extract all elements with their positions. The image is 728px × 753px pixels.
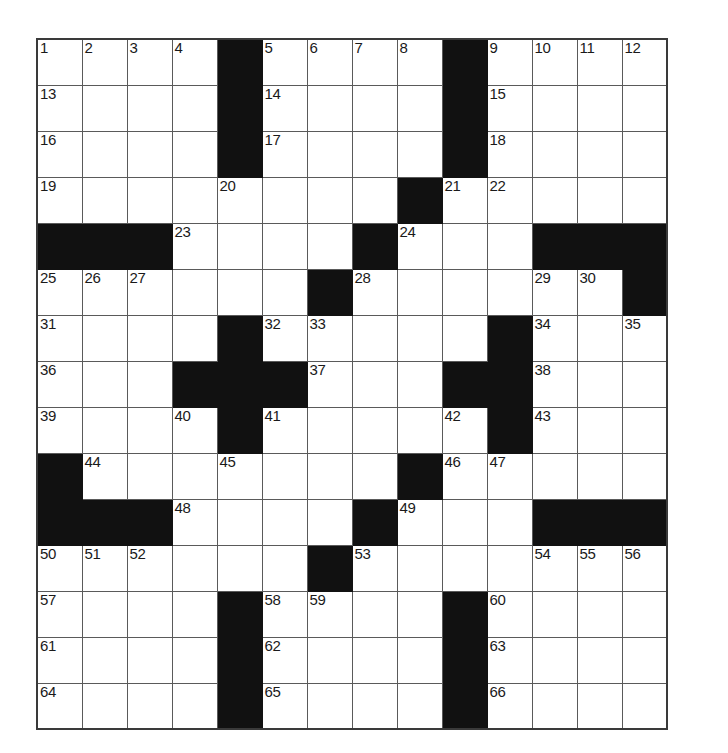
crossword-cell[interactable]: 33 xyxy=(307,315,352,361)
crossword-cell[interactable] xyxy=(532,453,577,499)
crossword-cell[interactable] xyxy=(172,177,217,223)
crossword-cell[interactable] xyxy=(307,407,352,453)
crossword-cell[interactable]: 46 xyxy=(442,453,487,499)
crossword-cell[interactable] xyxy=(352,315,397,361)
crossword-cell[interactable]: 14 xyxy=(262,85,307,131)
crossword-cell[interactable] xyxy=(397,269,442,315)
crossword-cell[interactable] xyxy=(397,545,442,591)
crossword-cell[interactable]: 26 xyxy=(82,269,127,315)
crossword-cell[interactable]: 40 xyxy=(172,407,217,453)
crossword-cell[interactable]: 31 xyxy=(37,315,82,361)
crossword-cell[interactable] xyxy=(82,131,127,177)
crossword-cell[interactable]: 43 xyxy=(532,407,577,453)
crossword-cell[interactable] xyxy=(532,591,577,637)
crossword-cell[interactable]: 28 xyxy=(352,269,397,315)
crossword-cell[interactable]: 37 xyxy=(307,361,352,407)
crossword-cell[interactable] xyxy=(577,315,622,361)
crossword-cell[interactable] xyxy=(127,637,172,683)
crossword-cell[interactable]: 23 xyxy=(172,223,217,269)
crossword-cell[interactable] xyxy=(172,637,217,683)
crossword-cell[interactable]: 22 xyxy=(487,177,532,223)
crossword-cell[interactable]: 39 xyxy=(37,407,82,453)
crossword-cell[interactable]: 66 xyxy=(487,683,532,729)
crossword-cell[interactable] xyxy=(82,591,127,637)
crossword-cell[interactable] xyxy=(307,85,352,131)
crossword-cell[interactable] xyxy=(532,131,577,177)
crossword-cell[interactable] xyxy=(397,637,442,683)
crossword-cell[interactable] xyxy=(217,499,262,545)
crossword-cell[interactable] xyxy=(262,499,307,545)
crossword-cell[interactable]: 30 xyxy=(577,269,622,315)
crossword-cell[interactable] xyxy=(397,315,442,361)
crossword-cell[interactable] xyxy=(442,545,487,591)
crossword-cell[interactable] xyxy=(172,591,217,637)
crossword-cell[interactable]: 44 xyxy=(82,453,127,499)
crossword-cell[interactable] xyxy=(397,85,442,131)
crossword-cell[interactable] xyxy=(352,131,397,177)
crossword-cell[interactable] xyxy=(622,131,667,177)
crossword-cell[interactable]: 45 xyxy=(217,453,262,499)
crossword-cell[interactable]: 56 xyxy=(622,545,667,591)
crossword-cell[interactable] xyxy=(127,177,172,223)
crossword-cell[interactable]: 16 xyxy=(37,131,82,177)
crossword-cell[interactable]: 50 xyxy=(37,545,82,591)
crossword-grid[interactable]: 1234567891011121314151617181920212223242… xyxy=(36,38,668,730)
crossword-cell[interactable] xyxy=(262,177,307,223)
crossword-cell[interactable] xyxy=(127,315,172,361)
crossword-cell[interactable] xyxy=(397,407,442,453)
crossword-cell[interactable]: 57 xyxy=(37,591,82,637)
crossword-cell[interactable] xyxy=(622,85,667,131)
crossword-cell[interactable]: 27 xyxy=(127,269,172,315)
crossword-cell[interactable]: 12 xyxy=(622,39,667,85)
crossword-cell[interactable]: 6 xyxy=(307,39,352,85)
crossword-cell[interactable] xyxy=(127,407,172,453)
crossword-cell[interactable] xyxy=(352,361,397,407)
crossword-cell[interactable] xyxy=(442,269,487,315)
crossword-cell[interactable]: 63 xyxy=(487,637,532,683)
crossword-cell[interactable] xyxy=(82,361,127,407)
crossword-cell[interactable]: 48 xyxy=(172,499,217,545)
crossword-cell[interactable] xyxy=(172,315,217,361)
crossword-cell[interactable]: 53 xyxy=(352,545,397,591)
crossword-cell[interactable] xyxy=(82,177,127,223)
crossword-cell[interactable] xyxy=(622,361,667,407)
crossword-cell[interactable] xyxy=(217,223,262,269)
crossword-cell[interactable]: 35 xyxy=(622,315,667,361)
crossword-cell[interactable] xyxy=(172,683,217,729)
crossword-cell[interactable]: 47 xyxy=(487,453,532,499)
crossword-cell[interactable]: 3 xyxy=(127,39,172,85)
crossword-cell[interactable] xyxy=(172,269,217,315)
crossword-cell[interactable] xyxy=(577,85,622,131)
crossword-cell[interactable] xyxy=(262,223,307,269)
crossword-cell[interactable] xyxy=(82,637,127,683)
crossword-cell[interactable] xyxy=(262,269,307,315)
crossword-cell[interactable] xyxy=(352,85,397,131)
crossword-cell[interactable] xyxy=(532,637,577,683)
crossword-cell[interactable] xyxy=(82,85,127,131)
crossword-cell[interactable]: 25 xyxy=(37,269,82,315)
crossword-cell[interactable]: 21 xyxy=(442,177,487,223)
crossword-cell[interactable] xyxy=(127,453,172,499)
crossword-cell[interactable]: 9 xyxy=(487,39,532,85)
crossword-cell[interactable]: 51 xyxy=(82,545,127,591)
crossword-cell[interactable] xyxy=(172,131,217,177)
crossword-cell[interactable]: 52 xyxy=(127,545,172,591)
crossword-cell[interactable] xyxy=(352,591,397,637)
crossword-cell[interactable]: 7 xyxy=(352,39,397,85)
crossword-cell[interactable]: 42 xyxy=(442,407,487,453)
crossword-cell[interactable]: 38 xyxy=(532,361,577,407)
crossword-cell[interactable]: 5 xyxy=(262,39,307,85)
crossword-cell[interactable] xyxy=(532,85,577,131)
crossword-cell[interactable] xyxy=(487,545,532,591)
crossword-cell[interactable] xyxy=(577,683,622,729)
crossword-cell[interactable]: 36 xyxy=(37,361,82,407)
crossword-cell[interactable] xyxy=(397,361,442,407)
crossword-cell[interactable]: 18 xyxy=(487,131,532,177)
crossword-cell[interactable] xyxy=(577,591,622,637)
crossword-cell[interactable] xyxy=(487,223,532,269)
crossword-cell[interactable] xyxy=(307,223,352,269)
crossword-cell[interactable]: 60 xyxy=(487,591,532,637)
crossword-cell[interactable]: 4 xyxy=(172,39,217,85)
crossword-cell[interactable] xyxy=(577,637,622,683)
crossword-cell[interactable] xyxy=(577,131,622,177)
